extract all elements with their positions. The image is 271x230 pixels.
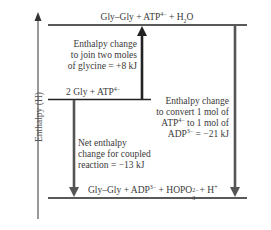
annotation-atp-to-adp: Enthalpy change to convert 1 mol of ATP4…: [140, 96, 229, 140]
y-axis-label: Enthalpy (H): [34, 82, 44, 152]
arrow-down-head-icon: [69, 187, 79, 197]
level-top-label: Gly–Gly + ATP4− + H2O: [92, 12, 202, 23]
level-middle-label: 2 Gly + ATP4−: [66, 87, 120, 98]
annotation-join-glycine: Enthalpy change to join two moles of gly…: [60, 39, 137, 72]
level-bottom-label: Gly–Gly + ADP3− + HOPO2−3 + H+: [88, 185, 218, 196]
annotation-net-coupled: Net enthalpy change for coupled reaction…: [78, 138, 151, 171]
arrow-down-head-icon: [230, 187, 240, 197]
y-axis-arrowhead-icon: [35, 12, 42, 21]
arrow-up-head-icon: [137, 26, 147, 36]
